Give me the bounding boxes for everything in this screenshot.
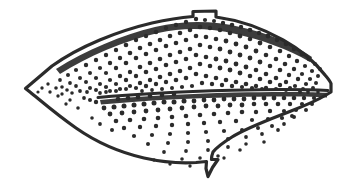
stipple-dot <box>174 41 179 46</box>
stipple-dot <box>240 103 245 108</box>
stipple-dot <box>148 78 152 82</box>
stipple-dot <box>114 48 118 52</box>
stipple-dot <box>204 130 208 134</box>
stipple-dot <box>134 56 139 61</box>
stipple-dot <box>118 56 122 60</box>
stipple-dot <box>154 30 159 35</box>
stipple-dot <box>268 45 273 50</box>
stipple-dot <box>206 139 210 143</box>
stipple-dot <box>110 128 114 132</box>
stipple-dot <box>198 156 202 160</box>
stipple-dot <box>268 109 272 113</box>
stipple-dot <box>168 107 173 112</box>
stipple-dot <box>238 71 243 76</box>
stipple-dot <box>221 21 225 25</box>
stipple-dot <box>282 96 287 101</box>
stipple-dot <box>168 34 173 39</box>
stipple-dot <box>78 89 82 93</box>
stipple-dot <box>158 38 163 43</box>
stipple-dot <box>98 122 102 126</box>
stipple-dot <box>122 126 126 130</box>
stipple-dot <box>198 62 203 67</box>
stipple-dot <box>144 70 149 75</box>
stipple-dot <box>214 76 219 81</box>
stipple-dot <box>254 84 258 88</box>
stipple-dot <box>124 43 129 48</box>
stipple-dot <box>198 113 203 118</box>
stipple-dot <box>248 37 253 42</box>
stipple-dot <box>85 90 89 94</box>
stipple-dot <box>192 105 197 110</box>
stipple-dot <box>108 78 112 82</box>
stipple-dot <box>272 96 277 101</box>
stipple-dot <box>274 57 279 62</box>
stipple-dot <box>238 53 243 58</box>
stipple-dot <box>132 103 137 108</box>
stipple-dot <box>184 20 188 24</box>
stipple-dot <box>48 90 51 93</box>
stipple-dot <box>292 67 296 71</box>
stipple-dot <box>226 145 230 149</box>
stipple-dot <box>76 106 80 110</box>
stipple-dot <box>238 34 243 39</box>
stipple-dot <box>218 120 222 124</box>
stipple-dot <box>132 134 136 138</box>
stipple-dot <box>138 81 142 85</box>
stipple-dot <box>188 66 193 71</box>
stipple-dot <box>238 148 242 152</box>
stipple-dot <box>192 99 197 104</box>
stipple-dot <box>268 80 273 85</box>
stipple-dot <box>128 51 133 56</box>
stipple-dot <box>154 48 159 53</box>
stipple-dot <box>268 64 273 69</box>
stipple-dot <box>214 37 219 42</box>
stipple-dot <box>114 66 118 70</box>
stipple-dot <box>150 133 154 137</box>
stipple-dot <box>295 59 299 63</box>
stipple-dot <box>134 86 138 90</box>
stipple-dot <box>164 26 168 30</box>
stipple-dot <box>94 100 98 104</box>
stipple-dot <box>260 132 264 136</box>
stipple-dot <box>244 135 248 139</box>
stipple-dot <box>256 126 260 130</box>
stipple-dot <box>212 19 216 23</box>
stipple-dot <box>148 61 153 66</box>
stipple-dot <box>154 82 158 86</box>
stipple-dot <box>258 60 263 65</box>
stipple-dot <box>78 76 82 80</box>
stipple-dot <box>138 65 143 70</box>
stipple-dot <box>122 104 127 109</box>
stipple-dot <box>198 25 203 30</box>
stipple-dot <box>144 52 149 57</box>
stipple-dot <box>200 81 204 85</box>
stipple-dot <box>278 68 283 73</box>
stipple-dot <box>204 74 209 79</box>
stipple-dot <box>188 47 193 52</box>
stipple-dot <box>224 78 229 83</box>
stipple-dot <box>134 38 138 42</box>
stipple-dot <box>234 80 239 85</box>
stipple-dot <box>128 118 133 123</box>
stipple-dot <box>180 85 184 89</box>
stipple-dot <box>230 84 234 88</box>
stipple-dot <box>84 63 88 67</box>
stipple-dot <box>178 31 183 36</box>
stipple-dot <box>310 69 314 73</box>
stipple-dot <box>138 46 143 51</box>
stipple-dot <box>208 45 213 50</box>
stipple-dot <box>140 89 144 93</box>
stipple-dot <box>288 102 292 106</box>
stipple-dot <box>84 80 88 84</box>
stipple-dot <box>118 74 122 78</box>
stipple-dot <box>186 131 190 135</box>
stipple-dot <box>252 102 257 107</box>
stipple-dot <box>184 57 189 62</box>
stipple-dot <box>88 71 92 75</box>
stipple-dot <box>232 97 237 102</box>
stipple-dot <box>164 63 169 68</box>
stipple-dot <box>182 99 187 104</box>
stipple-dot <box>293 84 297 88</box>
stipple-dot <box>194 72 199 77</box>
stipple-dot <box>234 62 239 67</box>
